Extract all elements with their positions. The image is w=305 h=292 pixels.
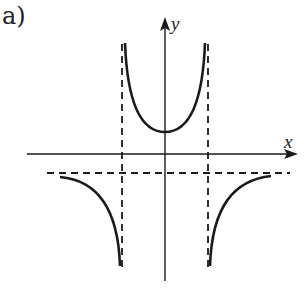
x-axis: [27, 149, 298, 159]
x-axis-label: x: [283, 131, 293, 152]
function-graph: x y: [0, 0, 305, 292]
left-lower-branch: [60, 177, 120, 266]
y-axis: [160, 17, 170, 281]
right-lower-branch: [210, 176, 271, 266]
y-axis-label: y: [169, 13, 180, 34]
